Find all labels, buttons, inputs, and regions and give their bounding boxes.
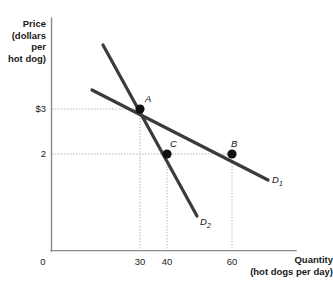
demand-curve-d2 — [103, 45, 197, 216]
point-label-b: B — [231, 138, 237, 149]
curve-label-d2-base: D — [200, 216, 207, 227]
demand-curve-d1 — [92, 90, 268, 180]
curve-label-d2-sub: 2 — [207, 222, 211, 229]
curve-label-d2: D2 — [200, 216, 211, 229]
y-axis-title-line-2: (dollars — [0, 30, 46, 42]
y-tick-label-3: $3 — [22, 103, 46, 114]
y-axis-title-line-4: hot dog) — [0, 53, 46, 65]
axis-lines — [51, 18, 296, 251]
curve-label-d1: D1 — [272, 174, 283, 187]
plot-area — [0, 0, 333, 291]
y-axis-title-line-1: Price — [0, 18, 46, 30]
y-tick-label-2: 2 — [22, 148, 46, 159]
x-tick-label-40: 40 — [155, 256, 179, 267]
point-label-c: C — [170, 138, 177, 149]
data-point-c — [162, 149, 171, 158]
demand-curve-figure: Price (dollars per hot dog) Quantity (ho… — [0, 0, 333, 291]
x-tick-label-30: 30 — [128, 256, 152, 267]
x-tick-label-60: 60 — [220, 256, 244, 267]
y-axis-title-line-3: per — [0, 41, 46, 53]
x-axis-title-line-1: Quantity — [233, 254, 333, 266]
x-axis-title: Quantity (hot dogs per day) — [233, 254, 333, 277]
data-point-b — [227, 149, 236, 158]
y-axis-title: Price (dollars per hot dog) — [0, 18, 46, 64]
x-tick-label-0: 0 — [31, 256, 55, 267]
x-axis-title-line-2: (hot dogs per day) — [233, 266, 333, 278]
curve-label-d1-base: D — [272, 174, 279, 185]
point-label-a: A — [145, 93, 151, 104]
curve-label-d1-sub: 1 — [279, 180, 283, 187]
guide-lines — [52, 109, 233, 251]
data-point-a — [135, 104, 144, 113]
